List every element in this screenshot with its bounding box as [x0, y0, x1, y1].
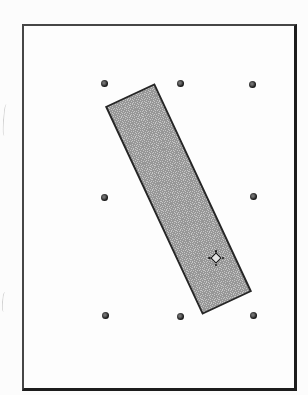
anchor-tick-south: [215, 264, 218, 267]
anchor-diamond: [210, 252, 221, 263]
anchor-tick-east: [222, 257, 225, 260]
rotated-rectangle[interactable]: [104, 83, 251, 315]
figure-stage: [0, 0, 308, 395]
rotation-anchor-icon[interactable]: [208, 250, 224, 266]
object-layer: [0, 0, 308, 395]
